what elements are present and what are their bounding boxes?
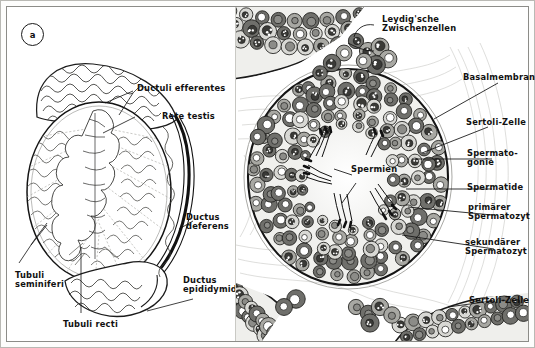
label-spermien: Spermien — [351, 165, 397, 174]
label-sekundaerer-spermatozyt: sekundärer Spermatozyt — [465, 238, 527, 256]
label-primaerer-spermatozyt: primärer Spermatozyt — [468, 203, 530, 221]
figure-root: a — [0, 0, 535, 348]
panel-b-drawing — [236, 7, 528, 341]
label-sertoli-zelle-top: Sertoli-Zelle — [466, 118, 526, 127]
label-rete-testis: Rete testis — [162, 112, 215, 121]
label-ductuli-efferentes: Ductuli efferentes — [137, 84, 225, 93]
label-tubuli-seminiferi: Tubuli seminiferi — [15, 271, 64, 289]
label-tubuli-recti: Tubuli recti — [63, 320, 118, 329]
label-sertoli-zelle-bottom: Sertoli-Zelle — [469, 296, 529, 305]
label-ductus-deferens: Ductus deferens — [186, 213, 229, 231]
label-spermatide: Spermatide — [467, 183, 523, 192]
label-spermatogonie: Spermato- gonie — [467, 149, 518, 167]
label-basalmembran: Basalmembran — [463, 73, 535, 82]
label-leydigsche-zwischenzellen: Leydig'sche Zwischenzellen — [382, 15, 456, 33]
figure-inner-frame: a — [6, 6, 529, 342]
